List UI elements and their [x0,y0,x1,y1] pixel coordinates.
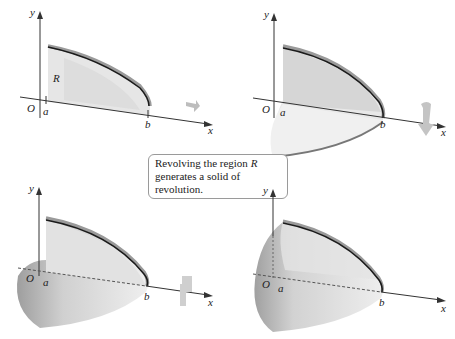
b-label: b [380,118,386,130]
x-axis-label: x [440,126,446,138]
origin-label: O [262,278,270,290]
x-axis-label: x [440,302,446,314]
rotation-arrow-icon [180,276,192,306]
a-label: a [43,276,49,288]
caption-line-1: Revolving the region R [155,157,281,170]
x-axis-label: x [207,124,213,136]
a-label: a [43,105,49,117]
full-solid-diagram: y x O a b [225,180,455,339]
mostly-revolved-diagram: y x O a b [0,180,225,339]
y-axis-arrow-icon [271,13,277,21]
x-axis [146,286,208,295]
y-axis-label: y [28,182,34,194]
b-label: b [144,290,150,302]
panel-mostly-revolved: y x O a b [0,180,225,339]
y-axis-arrow-icon [36,187,42,195]
x-axis-label: x [207,296,213,308]
a-label: a [278,282,284,294]
rotation-arrow-icon [186,100,200,112]
b-label: b [379,296,385,308]
y-axis-label: y [263,8,269,20]
half-revolved-diagram: y x O a b [225,0,455,170]
x-axis [381,292,441,300]
panel-region: y x O a b R [0,0,225,150]
b-label: b [145,118,151,130]
y-axis-label: y [262,184,268,196]
origin-label: O [26,272,34,284]
region-diagram: y x O a b R [0,0,225,150]
origin-label: O [262,103,270,115]
panel-full-solid: y x O a b [225,180,455,339]
y-axis-arrow-icon [37,11,43,19]
origin-label: O [27,102,35,114]
a-label: a [280,106,286,118]
region-label: R [52,72,60,84]
y-axis-arrow-icon [270,189,276,197]
panel-half-revolved: y x O a b [225,0,455,170]
rotation-arrow-icon [418,102,434,136]
y-axis-label: y [29,6,35,18]
